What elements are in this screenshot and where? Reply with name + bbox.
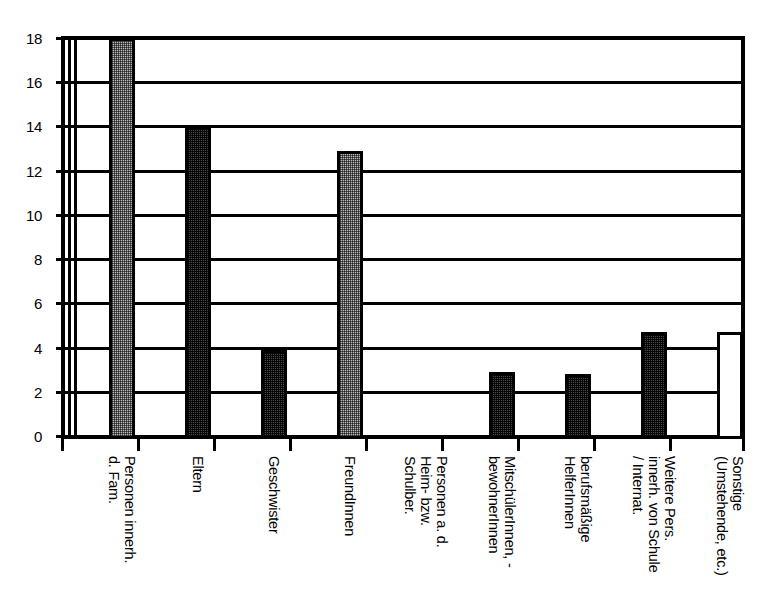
x-axis-category-label: Sonstige (Umstehende, etc.) (714, 456, 746, 576)
x-axis-tick-mark (593, 439, 596, 451)
bar-fill (188, 129, 208, 436)
x-axis-category-label: Geschwister (266, 456, 282, 534)
y-axis: 024681012141618 (12, 0, 42, 610)
bar (185, 126, 211, 436)
y-axis-tick-label: 6 (34, 296, 42, 311)
bar-fill (644, 335, 664, 436)
y-axis-tick-label: 8 (34, 252, 42, 267)
y-axis-tick-label: 10 (26, 207, 42, 222)
x-axis-tick-mark (365, 439, 368, 451)
bar (261, 350, 287, 436)
bar-fill (264, 353, 284, 436)
x-axis-category-label: Weitere Pers. innerh. von Schule / Inter… (630, 456, 678, 573)
x-axis-tick-mark (669, 439, 672, 451)
x-axis-tick-mark (517, 439, 520, 451)
bar-fill (340, 154, 360, 436)
y-axis-tick-label: 2 (34, 384, 42, 399)
bar-fill (112, 41, 132, 436)
bars-layer (61, 36, 745, 439)
y-axis-tick-label: 0 (34, 429, 42, 444)
x-axis-tick-mark (289, 439, 292, 451)
x-axis-category-label: berufsmäßige HelferInnen (562, 456, 594, 542)
bar (337, 151, 363, 436)
bar-fill (568, 377, 588, 436)
bar (565, 374, 591, 436)
x-axis-category-label: Eltern (190, 456, 206, 493)
bar (109, 38, 135, 436)
y-axis-tick-label: 16 (26, 75, 42, 90)
bar-chart: 024681012141618 Personen innerh. d. Fam.… (0, 0, 769, 610)
y-axis-tick-label: 12 (26, 163, 42, 178)
y-axis-tick-label: 4 (34, 340, 42, 355)
x-axis-tick-mark (61, 439, 64, 451)
x-axis-category-label: MitschülerInnen, - bewohnerInnen (486, 456, 518, 568)
x-axis-tick-mark (742, 439, 745, 451)
x-axis-category-label: Personen innerh. d. Fam. (106, 456, 138, 563)
x-axis-tick-mark (213, 439, 216, 451)
bar (717, 332, 743, 436)
x-axis-labels: Personen innerh. d. Fam.ElternGeschwiste… (61, 452, 769, 610)
bar (489, 372, 515, 436)
x-axis-category-label: Personen a. d. Heim- bzw. Schulber. (402, 456, 450, 548)
x-axis (61, 439, 745, 453)
bar (641, 332, 667, 436)
bar-fill (720, 335, 740, 436)
x-axis-tick-mark (441, 439, 444, 451)
x-axis-category-label: FreundInnen (342, 456, 358, 536)
bar-fill (492, 375, 512, 436)
x-axis-tick-mark (137, 439, 140, 451)
y-axis-tick-label: 18 (26, 31, 42, 46)
y-axis-tick-label: 14 (26, 119, 42, 134)
